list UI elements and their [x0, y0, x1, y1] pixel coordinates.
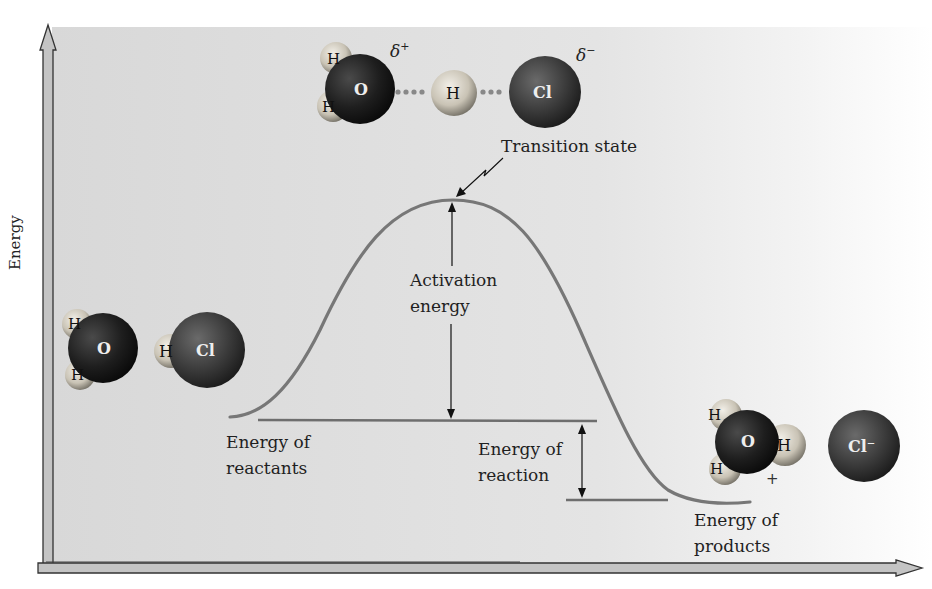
products-energy-line2: products	[694, 536, 770, 557]
energy-diagram: H H O H Cl H H O H Cl H H H O Cl⁻ δ+ δ− …	[0, 0, 932, 589]
atom-h-label: H	[322, 97, 335, 118]
products-energy-line1: Energy of	[694, 510, 778, 531]
delta-symbol: δ	[390, 41, 400, 61]
charge-sign: +	[400, 40, 409, 53]
atom-cl-label: Cl	[196, 340, 215, 361]
reactant-energy-level	[258, 420, 597, 421]
atom-h-label: H	[68, 314, 81, 335]
atom-h-label: H	[159, 341, 173, 362]
activation-energy-line1: Activation	[410, 270, 497, 291]
atom-o-label: O	[354, 79, 368, 100]
activation-energy-line2: energy	[410, 296, 470, 317]
atom-h-label: H	[446, 83, 460, 104]
y-axis-arrow	[40, 25, 56, 566]
hydronium-charge: +	[766, 470, 779, 488]
delta-symbol: δ	[576, 45, 586, 65]
y-axis-label: Energy	[6, 215, 24, 270]
diagram-canvas	[0, 0, 932, 589]
delta-plus-charge: δ+	[390, 40, 409, 61]
atom-h-label: H	[327, 49, 340, 70]
atom-o-label: O	[97, 338, 111, 359]
atom-cl-label: Cl	[533, 82, 552, 103]
atom-h-label: H	[708, 405, 721, 426]
transition-state-label: Transition state	[501, 136, 637, 157]
reaction-energy-line1: Energy of	[478, 439, 562, 460]
atom-cl-minus-label: Cl⁻	[848, 436, 875, 457]
atom-h-label: H	[777, 435, 791, 456]
charge-sign: −	[586, 44, 595, 57]
atom-h-label: H	[710, 459, 723, 480]
reaction-energy-line2: reaction	[478, 465, 549, 486]
atom-o-label: O	[741, 431, 755, 452]
atom-h-label: H	[71, 365, 84, 386]
reactants-energy-line2: reactants	[226, 458, 307, 479]
reactants-energy-line1: Energy of	[226, 432, 310, 453]
delta-minus-charge: δ−	[576, 44, 595, 65]
